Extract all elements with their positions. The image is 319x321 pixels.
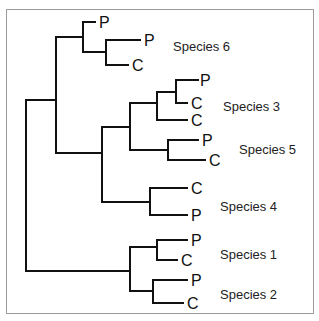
tip-label: P [99, 14, 110, 31]
tip-label: C [191, 95, 203, 112]
tip-label: C [191, 180, 203, 197]
species-label-1: Species 1 [220, 247, 277, 262]
tip-label: C [181, 252, 193, 269]
tip-label: C [132, 57, 144, 74]
tip-label: P [144, 32, 155, 49]
tip-label: C [209, 152, 221, 169]
phylogenetic-tree: P P C P C C P C C P P C P C Species 6 Sp… [0, 0, 319, 321]
tip-label: C [191, 112, 203, 129]
tip-label: P [191, 272, 202, 289]
tree-branches [26, 22, 205, 303]
tip-label: P [191, 232, 202, 249]
tip-labels: P P C P C C P C C P P C P C [99, 14, 221, 312]
species-label-3: Species 3 [223, 99, 280, 114]
tip-label: C [187, 295, 199, 312]
tip-label: P [200, 72, 211, 89]
species-label-2: Species 2 [220, 287, 277, 302]
species-label-6: Species 6 [173, 39, 230, 54]
tip-label: P [202, 132, 213, 149]
species-label-5: Species 5 [239, 142, 296, 157]
tip-label: P [191, 207, 202, 224]
species-label-4: Species 4 [220, 199, 277, 214]
